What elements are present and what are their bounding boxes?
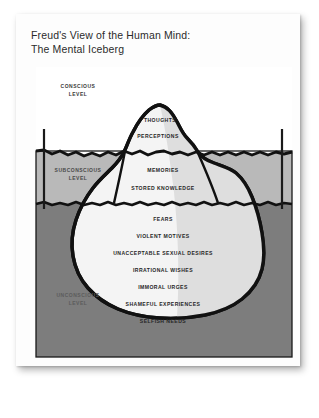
level-label-subconscious: SUBCONSCIOUS LEVEL bbox=[55, 167, 102, 182]
iceberg-label-shameful-experiences: SHAMEFUL EXPERIENCES bbox=[126, 301, 201, 307]
iceberg-label-memories: MEMORIES bbox=[147, 167, 178, 173]
iceberg-label-unacceptable-sexual-desires: UNACCEPTABLE SEXUAL DESIRES bbox=[113, 250, 213, 256]
iceberg-label-violent-motives: VIOLENT MOTIVES bbox=[136, 233, 189, 239]
iceberg-label-selfish-needs: SELFISH NEEDS bbox=[140, 318, 186, 324]
iceberg-label-irrational-wishes: IRRATIONAL WISHES bbox=[133, 267, 193, 273]
iceberg-label-fears: FEARS bbox=[153, 216, 173, 222]
iceberg-label-stored-knowledge: STORED KNOWLEDGE bbox=[131, 185, 194, 191]
page-title: Freud's View of the Human Mind: The Ment… bbox=[31, 28, 281, 56]
iceberg-label-thoughts: THOUGHTS bbox=[144, 117, 176, 123]
level-label-unconscious: UNCONSCIOUS LEVEL bbox=[56, 292, 99, 307]
level-label-conscious: CONSCIOUS LEVEL bbox=[61, 83, 96, 98]
iceberg-label-perceptions: PERCEPTIONS bbox=[137, 133, 178, 139]
iceberg-diagram: CONSCIOUS LEVEL SUBCONSCIOUS LEVEL UNCON… bbox=[22, 67, 294, 362]
diagram-card: Freud's View of the Human Mind: The Ment… bbox=[16, 14, 300, 366]
iceberg-label-immoral-urges: IMMORAL URGES bbox=[138, 284, 188, 290]
